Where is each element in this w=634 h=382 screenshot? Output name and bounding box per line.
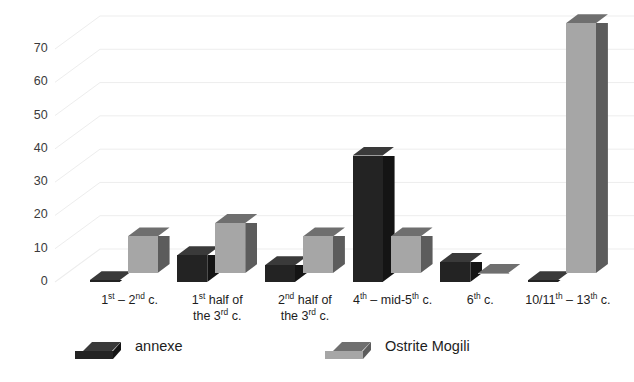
chart-container: 010203040506070 1st – 2nd c.1st half oft… [0,0,634,382]
legend-swatch-front [325,351,363,359]
legend-label: Ostrite Mogili [385,338,470,354]
legend-label: annexe [135,338,183,354]
legend-swatch-front [75,351,113,359]
chart-legend: annexeOstrite Mogili [0,336,634,382]
x-axis-category-labels: 1st – 2nd c.1st half ofthe 3rd c.2nd hal… [0,0,634,382]
x-axis-label-6: 10/11th – 13th c. [512,292,624,308]
gray-3d-swatch [325,342,371,359]
dark-3d-swatch [75,342,121,359]
